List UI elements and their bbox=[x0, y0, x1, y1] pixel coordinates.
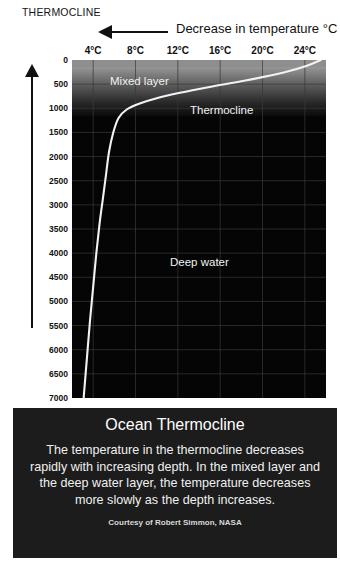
y-tick-label: 4500 bbox=[38, 272, 68, 282]
y-tick-label: 5000 bbox=[38, 296, 68, 306]
caption-body: The temperature in the thermocline decre… bbox=[27, 442, 323, 508]
y-tick-label: 0 bbox=[38, 55, 68, 65]
caption-box: Ocean Thermocline The temperature in the… bbox=[13, 408, 337, 558]
y-tick-label: 2000 bbox=[38, 152, 68, 162]
y-tick-label: 4000 bbox=[38, 248, 68, 258]
caption-credit: Courtesy of Robert Simmon, NASA bbox=[27, 518, 323, 527]
thermocline-label: Thermocline bbox=[190, 104, 253, 116]
ocean-profile-plot: Mixed layer Thermocline Deep water bbox=[72, 60, 326, 398]
up-arrow-shaft bbox=[31, 74, 33, 328]
y-tick-label: 6000 bbox=[38, 345, 68, 355]
y-tick-label: 1500 bbox=[38, 127, 68, 137]
y-tick-label: 5500 bbox=[38, 321, 68, 331]
y-tick-label: 7000 bbox=[38, 393, 68, 403]
caption-heading: Ocean Thermocline bbox=[27, 416, 323, 434]
y-tick-label: 1000 bbox=[38, 103, 68, 113]
y-tick-label: 500 bbox=[38, 79, 68, 89]
y-tick-label: 6500 bbox=[38, 369, 68, 379]
y-tick-label: 2500 bbox=[38, 176, 68, 186]
thermocline-figure: THERMOCLINE Decrease in temperature °C 4… bbox=[0, 0, 340, 568]
y-tick-label: 3000 bbox=[38, 200, 68, 210]
y-tick-label: 3500 bbox=[38, 224, 68, 234]
mixed-layer-label: Mixed layer bbox=[110, 75, 169, 87]
depth-axis-arrow bbox=[25, 66, 39, 328]
deep-water-label: Deep water bbox=[170, 256, 229, 268]
